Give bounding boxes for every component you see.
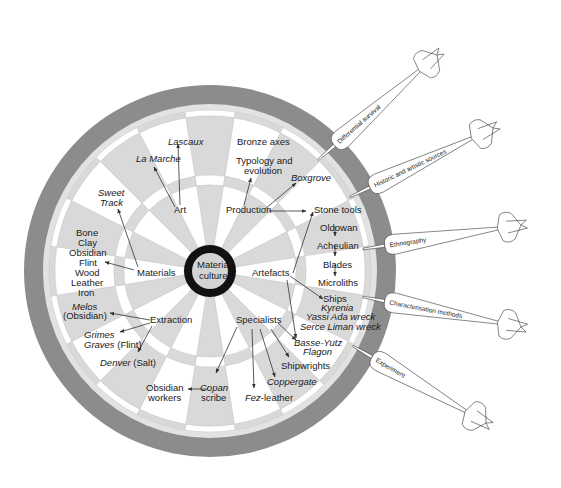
label-graves: Graves xyxy=(84,339,115,350)
label-bronze-axes: Bronze axes xyxy=(237,136,290,147)
label-graves-flint: Graves (Flint) xyxy=(84,339,142,350)
dart-1: Differential survival xyxy=(308,40,451,171)
label-la-marche: La Marche xyxy=(136,153,181,164)
board-segment xyxy=(195,356,225,367)
label-track: Track xyxy=(100,197,124,208)
label-flint-suffix: (Flint) xyxy=(115,339,142,350)
label-blades: Blades xyxy=(323,259,352,270)
label-shipwrights: Shipwrights xyxy=(281,360,330,371)
label-iron: Iron xyxy=(78,287,94,298)
label-flagon: Flagon xyxy=(303,346,332,357)
label-culture: culture xyxy=(199,270,228,281)
label-fez: Fez xyxy=(245,392,261,403)
label-leather-suffix: -leather xyxy=(261,392,293,403)
dart-label: Historic and artistic sources xyxy=(373,147,448,188)
label-artefacts: Artefacts xyxy=(252,267,290,278)
label-specialists: Specialists xyxy=(236,314,282,325)
label-obsidian-workers-2: workers xyxy=(147,392,182,403)
label-scribe: scribe xyxy=(201,392,226,403)
label-oldowan: Oldowan xyxy=(320,222,358,233)
label-typology-2: evolution xyxy=(244,165,282,176)
label-serce-liman: Serce Liman wreck xyxy=(300,321,382,332)
label-melos-obsidian: (Obsidian) xyxy=(63,310,107,321)
label-acheulian: Acheulian xyxy=(317,240,359,251)
label-extraction: Extraction xyxy=(150,314,192,325)
dart-flight xyxy=(495,210,523,243)
label-microliths: Microliths xyxy=(318,277,358,288)
label-denver-salt: Denver (Salt) xyxy=(100,357,156,368)
dart-flight xyxy=(495,308,524,342)
label-material: Material xyxy=(197,259,231,270)
label-stone-tools: Stone tools xyxy=(314,204,362,215)
label-lascaux: Lascaux xyxy=(168,136,205,147)
board-segment xyxy=(114,256,125,286)
dart-flight xyxy=(465,114,500,151)
label-materials: Materials xyxy=(137,267,176,278)
label-fez-leather: Fez-leather xyxy=(245,392,293,403)
board-segment xyxy=(195,175,225,186)
label-art: Art xyxy=(174,204,187,215)
dartboard-diagram: Differential survivalHistoric and artist… xyxy=(0,0,561,488)
dart-label: Differential survival xyxy=(336,103,382,145)
dart-flight xyxy=(458,398,494,436)
dart-barrel xyxy=(383,218,504,256)
label-salt-suffix: (Salt) xyxy=(131,357,156,368)
label-coppergate: Coppergate xyxy=(267,376,317,387)
label-boxgrove: Boxgrove xyxy=(291,172,331,183)
label-production: Production xyxy=(226,204,271,215)
label-denver: Denver xyxy=(100,357,131,368)
board-segment xyxy=(295,256,306,286)
